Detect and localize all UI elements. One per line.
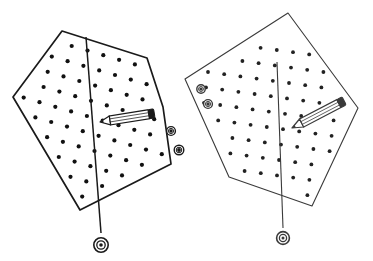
grid-dot <box>33 115 37 119</box>
grid-dot <box>320 86 324 90</box>
grid-dot <box>128 143 132 147</box>
grid-dot <box>45 135 49 139</box>
grid-dot <box>295 145 299 149</box>
grid-dot <box>206 70 210 74</box>
grid-dot <box>97 68 101 72</box>
grid-dot <box>231 136 235 140</box>
grid-dot <box>237 90 241 94</box>
grid-dot <box>57 90 61 94</box>
grid-dot <box>273 64 277 68</box>
grid-dot <box>235 105 239 109</box>
grid-dot <box>73 94 77 98</box>
grid-dot <box>69 109 73 113</box>
grid-dot <box>85 114 89 118</box>
grid-dot <box>303 83 307 87</box>
grid-dot <box>257 61 261 65</box>
grid-dot <box>259 171 263 175</box>
grommet-core <box>177 148 181 152</box>
grid-dot <box>310 163 314 167</box>
illustration-canvas <box>0 0 373 261</box>
grid-dot <box>281 127 285 131</box>
grid-dot <box>145 82 149 86</box>
grid-dot <box>140 97 144 101</box>
grid-dot <box>251 108 255 112</box>
grid-dot <box>133 62 137 66</box>
grid-dot <box>285 97 289 101</box>
grid-dot <box>81 129 85 133</box>
grid-dot <box>259 46 263 50</box>
grid-dot <box>293 160 297 164</box>
grid-dot <box>247 138 251 142</box>
grid-dot <box>113 73 117 77</box>
grid-dot <box>291 176 295 180</box>
grid-dot <box>287 81 291 85</box>
grid-dot <box>109 88 113 92</box>
grid-dot <box>318 101 322 105</box>
grid-dot <box>93 84 97 88</box>
grid-dot <box>105 103 109 107</box>
grid-dot <box>88 164 92 168</box>
grid-dot <box>269 94 273 98</box>
grid-dot <box>49 120 53 124</box>
grid-dot <box>261 156 265 160</box>
grid-dot <box>222 72 226 76</box>
grid-dot <box>305 68 309 72</box>
grid-dot <box>307 53 311 57</box>
grid-dot <box>263 141 267 145</box>
grid-dot <box>275 174 279 178</box>
grid-dot <box>271 79 275 83</box>
grid-dot <box>308 178 312 182</box>
grommet-core <box>206 102 209 105</box>
grid-dot <box>160 152 164 156</box>
grid-dot <box>73 160 77 164</box>
grommet-core <box>169 129 172 132</box>
grid-dot <box>22 96 26 100</box>
grid-dot <box>53 105 57 109</box>
grid-dot <box>283 112 287 116</box>
grid-dot <box>312 147 316 151</box>
grid-dot <box>291 50 295 54</box>
grid-dot <box>306 193 310 197</box>
grid-dot <box>229 152 233 156</box>
grid-dot <box>66 59 70 63</box>
grid-dot <box>129 78 133 82</box>
grid-dot <box>108 154 112 158</box>
grid-dot <box>121 108 125 112</box>
grid-dot <box>330 134 334 138</box>
grid-dot <box>218 103 222 107</box>
grid-dot <box>233 121 237 125</box>
grid-dot <box>253 92 257 96</box>
grid-dot <box>101 53 105 57</box>
pencil-ferrule-end <box>148 109 155 119</box>
grid-dot <box>104 169 108 173</box>
plumb-bob-core <box>99 243 103 247</box>
grid-dot <box>57 155 61 159</box>
grid-dot <box>140 163 144 167</box>
grid-dot <box>42 85 46 89</box>
plumb-bob-core <box>282 237 285 240</box>
grid-dot <box>249 123 253 127</box>
grommet-core <box>199 87 202 90</box>
grid-dot <box>332 119 336 123</box>
grid-dot <box>216 119 220 123</box>
grid-dot <box>289 66 293 70</box>
grid-dot <box>68 175 72 179</box>
grid-dot <box>117 58 121 62</box>
grid-dot <box>81 64 85 68</box>
grid-dot <box>84 179 88 183</box>
grid-dot <box>80 195 84 199</box>
grid-dot <box>100 184 104 188</box>
grid-dot <box>77 144 81 148</box>
grid-dot <box>61 140 65 144</box>
grid-dot <box>265 125 269 129</box>
grid-dot <box>144 148 148 152</box>
grid-dot <box>61 74 65 78</box>
grid-dot <box>97 134 101 138</box>
grid-dot <box>297 130 301 134</box>
grid-dot <box>65 125 69 129</box>
grid-dot <box>220 88 224 92</box>
grid-dot <box>267 110 271 114</box>
grid-dot <box>46 70 50 74</box>
line-art-drawing <box>0 0 373 261</box>
grid-dot <box>112 138 116 142</box>
